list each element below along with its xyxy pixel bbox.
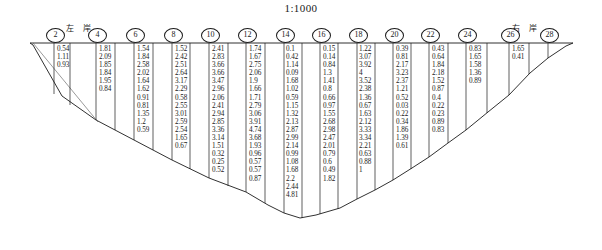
depth-value: 0.59: [137, 126, 149, 134]
sounding-column-22: 0.430.641.842.181.520.870.40.220.230.890…: [432, 45, 444, 134]
station-marker-18: 18: [349, 28, 368, 43]
sounding-column-10: 2.412.833.663.663.472.962.062.412.942.85…: [212, 45, 224, 175]
depth-value: 0.66: [323, 94, 335, 102]
depth-value: 0.41: [512, 53, 524, 61]
depth-value: 1: [359, 166, 371, 174]
depth-value: 1.08: [286, 158, 298, 166]
depth-value: 1.86: [396, 126, 408, 134]
depth-value: 0.34: [396, 118, 408, 126]
depth-value: 2.09: [99, 53, 111, 61]
depth-value: 2.02: [137, 69, 149, 77]
depth-value: 0.89: [469, 77, 481, 85]
sounding-column-4: 1.812.091.851.841.950.84: [99, 45, 111, 94]
depth-value: 0.4: [432, 94, 444, 102]
depth-value: 0.57: [249, 166, 261, 174]
station-marker-26: 26: [501, 28, 520, 43]
depth-value: 1.74: [249, 45, 261, 53]
depth-value: 0.63: [359, 150, 371, 158]
depth-value: 1.82: [323, 175, 335, 183]
depth-value: 1.64: [137, 77, 149, 85]
depth-value: 2.38: [359, 85, 371, 93]
depth-value: 0.59: [286, 94, 298, 102]
depth-value: 0.23: [432, 110, 444, 118]
depth-value: 2.12: [359, 118, 371, 126]
depth-value: 1.52: [432, 77, 444, 85]
sounding-column-6: 1.541.842.582.021.641.620.910.811.351.20…: [137, 45, 149, 134]
sounding-column-18: 1.223.073.9243.522.381.360.671.632.123.3…: [359, 45, 371, 175]
depth-value: 0.67: [175, 142, 187, 150]
depth-value: 1.36: [359, 94, 371, 102]
depth-value: 2.42: [175, 53, 187, 61]
depth-value: 2.59: [175, 118, 187, 126]
depth-value: 0.83: [432, 126, 444, 134]
depth-value: 2.75: [249, 61, 261, 69]
depth-value: 0.79: [323, 150, 335, 158]
depth-value: 0.49: [323, 166, 335, 174]
depth-value: 0.91: [137, 94, 149, 102]
depth-value: 2.68: [323, 118, 335, 126]
depth-value: 3.34: [359, 134, 371, 142]
depth-value: 1.22: [359, 45, 371, 53]
depth-value: 1.65: [469, 53, 481, 61]
depth-value: 3.33: [359, 126, 371, 134]
station-marker-22: 22: [421, 28, 440, 43]
depth-value: 0.39: [396, 45, 408, 53]
depth-value: 1.65: [512, 45, 524, 53]
depth-value: 0.32: [212, 150, 224, 158]
depth-value: 2.29: [175, 85, 187, 93]
depth-value: 3.66: [212, 61, 224, 69]
depth-value: 2.47: [323, 134, 335, 142]
depth-value: 3.91: [249, 118, 261, 126]
depth-value: 0.8: [323, 85, 335, 93]
depth-value: 0.25: [212, 158, 224, 166]
depth-value: 0.54: [57, 45, 69, 53]
depth-value: 3.66: [212, 69, 224, 77]
depth-value: 2.13: [286, 118, 298, 126]
depth-value: 1.54: [137, 45, 149, 53]
depth-value: 0.88: [359, 158, 371, 166]
depth-value: 0.6: [323, 158, 335, 166]
depth-value: 3.06: [249, 110, 261, 118]
depth-value: 2.64: [175, 69, 187, 77]
station-marker-20: 20: [385, 28, 404, 43]
station-marker-2: 2: [46, 28, 65, 43]
depth-value: 1.55: [323, 110, 335, 118]
depth-value: 2.79: [249, 102, 261, 110]
depth-value: 1.95: [99, 77, 111, 85]
depth-value: 0.93: [57, 61, 69, 69]
depth-value: 0.81: [396, 53, 408, 61]
depth-value: 1.11: [57, 53, 69, 61]
depth-value: 1.2: [137, 118, 149, 126]
depth-value: 2.58: [137, 61, 149, 69]
depth-value: 1.32: [286, 110, 298, 118]
depth-value: 2.18: [432, 69, 444, 77]
depth-value: 3.68: [249, 134, 261, 142]
depth-value: 2.06: [249, 69, 261, 77]
depth-value: 1.67: [249, 53, 261, 61]
sounding-column-14: 0.10.421.140.091.681.020.591.151.322.132…: [286, 45, 298, 199]
depth-value: 1.52: [175, 45, 187, 53]
depth-value: 0.1: [286, 45, 298, 53]
station-marker-10: 10: [201, 28, 220, 43]
depth-value: 2.14: [286, 142, 298, 150]
depth-value: 0.83: [469, 45, 481, 53]
depth-value: 2.96: [212, 85, 224, 93]
depth-value: 1.21: [396, 85, 408, 93]
depth-value: 1.02: [286, 85, 298, 93]
depth-value: 0.67: [359, 102, 371, 110]
sounding-column-16: 0.150.140.841.31.410.80.660.971.552.682.…: [323, 45, 335, 183]
depth-value: 0.22: [432, 102, 444, 110]
depth-value: 0.57: [249, 158, 261, 166]
depth-value: 0.81: [137, 102, 149, 110]
depth-value: 2.94: [212, 110, 224, 118]
sounding-column-2: 0.541.110.93: [57, 45, 69, 69]
depth-value: 0.64: [432, 53, 444, 61]
depth-value: 0.89: [432, 118, 444, 126]
depth-value: 0.52: [396, 94, 408, 102]
depth-value: 0.03: [396, 102, 408, 110]
depth-value: 1.14: [286, 61, 298, 69]
depth-value: 2.2: [286, 175, 298, 183]
depth-value: 0.58: [175, 94, 187, 102]
depth-value: 1.85: [99, 61, 111, 69]
station-marker-12: 12: [238, 28, 257, 43]
